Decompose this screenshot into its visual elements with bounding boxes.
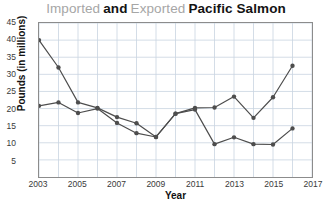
data-point-marker: [56, 100, 60, 104]
data-point-marker: [251, 142, 255, 146]
title-segment: and: [103, 1, 127, 16]
y-axis-tick-label: 40: [0, 35, 16, 44]
data-point-marker: [290, 126, 294, 130]
x-axis-tick-label: 2011: [175, 180, 215, 189]
data-point-marker: [212, 142, 216, 146]
chart-title: Imported and Exported Pacific Salmon: [0, 1, 332, 16]
x-axis-tick-label: 2003: [18, 180, 58, 189]
x-axis-tick-label: 2009: [136, 180, 176, 189]
data-point-marker: [232, 135, 236, 139]
x-axis-tick-label: 2007: [97, 180, 137, 189]
data-point-marker: [115, 115, 119, 119]
data-point-marker: [134, 121, 138, 125]
x-axis-tick-label: 2015: [254, 180, 294, 189]
data-point-marker: [95, 106, 99, 110]
chart-container: Imported and Exported Pacific Salmon Pou…: [0, 0, 332, 205]
data-point-marker: [271, 142, 275, 146]
x-axis-tick-label: 2013: [214, 180, 254, 189]
data-point-marker: [39, 38, 41, 42]
data-series-layer: [39, 23, 312, 177]
data-point-marker: [39, 104, 41, 108]
y-axis-tick-label: 45: [0, 18, 16, 27]
data-point-marker: [271, 95, 275, 99]
data-point-marker: [251, 116, 255, 120]
data-point-marker: [290, 64, 294, 68]
data-point-marker: [193, 107, 197, 111]
data-point-marker: [56, 65, 60, 69]
y-axis-title: Pounds (in millions): [16, 0, 27, 129]
y-axis-tick-label: 15: [0, 122, 16, 131]
y-axis-tick-label: 20: [0, 105, 16, 114]
y-axis-tick-label: 25: [0, 87, 16, 96]
series-line: [39, 102, 293, 144]
data-point-marker: [115, 121, 119, 125]
x-axis-title: Year: [38, 190, 313, 201]
y-axis-tick-label: 5: [0, 157, 16, 166]
data-point-marker: [134, 131, 138, 135]
x-axis-tick-label: 2017: [293, 180, 332, 189]
title-segment: Pacific Salmon: [188, 1, 285, 16]
data-point-marker: [76, 100, 80, 104]
title-segment: Imported: [46, 1, 100, 16]
y-axis-tick-label: 10: [0, 139, 16, 148]
data-point-marker: [173, 112, 177, 116]
x-axis-tick-label: 2005: [57, 180, 97, 189]
y-axis-tick-label: 35: [0, 53, 16, 62]
y-axis-tick-label: 30: [0, 70, 16, 79]
data-point-marker: [232, 94, 236, 98]
plot-area: [38, 22, 313, 178]
data-point-marker: [212, 105, 216, 109]
data-point-marker: [76, 111, 80, 115]
data-point-marker: [154, 135, 158, 139]
series-line: [39, 40, 293, 137]
title-segment: Exported: [131, 1, 186, 16]
